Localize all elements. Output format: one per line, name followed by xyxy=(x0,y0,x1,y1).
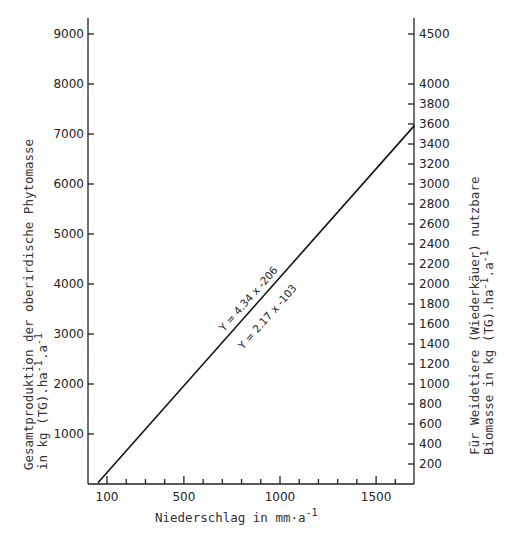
right-y-tick-label: 2600 xyxy=(419,217,450,231)
left-y-tick-label: 8000 xyxy=(53,77,84,91)
left-y-tick-label: 4000 xyxy=(53,277,84,291)
right-y-tick-label: 200 xyxy=(419,457,442,471)
left-y-axis-title: Gesamtproduktion der oberirdische Phytom… xyxy=(21,139,50,470)
left-y-tick-label: 9000 xyxy=(53,27,84,41)
x-tick-label: 1500 xyxy=(361,490,392,504)
right-y-tick-label: 1400 xyxy=(419,337,450,351)
left-y-tick-label: 2000 xyxy=(53,377,84,391)
right-y-axis-title-line1: Für Weidetiere (Wiederkäuer) nutzbare xyxy=(467,177,482,455)
regression-line xyxy=(98,125,415,482)
right-y-tick-label: 3400 xyxy=(419,137,450,151)
left-y-tick-label: 5000 xyxy=(53,227,84,241)
x-axis-title: Niederschlag in mm·a-1 xyxy=(155,507,318,525)
right-y-tick-label: 800 xyxy=(419,397,442,411)
x-tick-label: 100 xyxy=(96,490,119,504)
data-line xyxy=(98,125,415,482)
right-y-tick-label: 2200 xyxy=(419,257,450,271)
right-y-tick-label: 1600 xyxy=(419,317,450,331)
right-y-tick-label: 1000 xyxy=(419,377,450,391)
right-y-tick-label: 3000 xyxy=(419,177,450,191)
right-y-tick-label: 400 xyxy=(419,437,442,451)
left-y-tick-label: 7000 xyxy=(53,127,84,141)
right-y-tick-label: 4000 xyxy=(419,77,450,91)
right-y-tick-label: 3800 xyxy=(419,97,450,111)
right-y-tick-label: 1800 xyxy=(419,297,450,311)
right-y-tick-label: 1200 xyxy=(419,357,450,371)
axis-ticks: 1005001000150010002000300040005000600070… xyxy=(53,27,449,504)
equation-label-left: Y = 4.34 x -206 xyxy=(216,264,280,334)
right-y-tick-label: 600 xyxy=(419,417,442,431)
left-y-tick-label: 6000 xyxy=(53,177,84,191)
right-y-tick-label: 3600 xyxy=(419,117,450,131)
left-y-axis-title-line1: Gesamtproduktion der oberirdische Phytom… xyxy=(21,139,36,470)
axes xyxy=(88,18,414,484)
right-y-tick-label: 4500 xyxy=(419,27,450,41)
x-tick-label: 500 xyxy=(172,490,195,504)
right-y-axis-title: Für Weidetiere (Wiederkäuer) nutzbare Bi… xyxy=(467,177,496,455)
left-y-axis-title-line2: in kg (TG).ha-1.a-1 xyxy=(33,333,50,470)
right-y-tick-label: 2000 xyxy=(419,277,450,291)
right-y-tick-label: 3200 xyxy=(419,157,450,171)
x-tick-label: 1000 xyxy=(265,490,296,504)
chart: 1005001000150010002000300040005000600070… xyxy=(0,0,505,543)
right-y-tick-label: 2400 xyxy=(419,237,450,251)
right-y-tick-label: 2800 xyxy=(419,197,450,211)
left-y-tick-label: 1000 xyxy=(53,427,84,441)
left-y-tick-label: 3000 xyxy=(53,327,84,341)
right-y-axis-title-line2: Biomasse in kg (TG).ha-1.a-1 xyxy=(479,250,496,455)
